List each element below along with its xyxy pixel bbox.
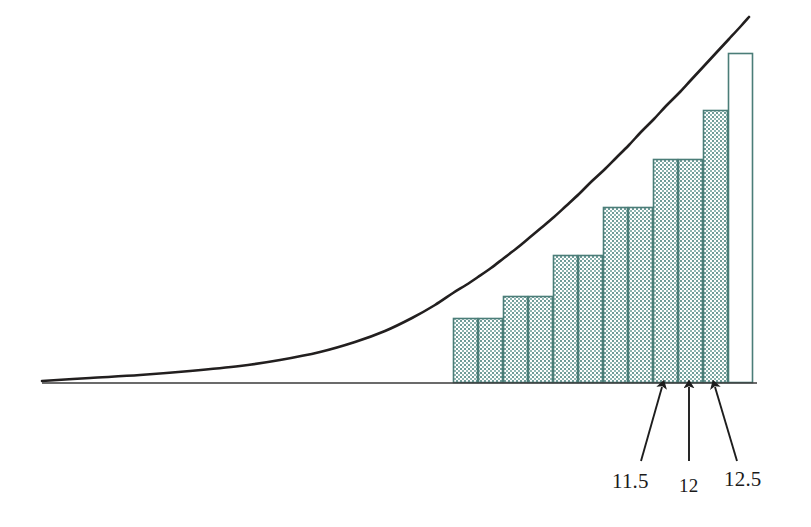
tick-label-12-5: 12.5 (724, 469, 762, 490)
bar-b3 (504, 297, 528, 383)
bar-b5 (554, 256, 578, 383)
tick-label-11-5: 11.5 (612, 471, 649, 492)
figure-container: 11.5 12 12.5 (0, 0, 811, 527)
bar-b12 (729, 54, 753, 383)
chart-svg (0, 0, 811, 527)
bar-b11 (704, 111, 728, 383)
annotation-arrows-layer (641, 387, 737, 461)
arrow-11-5 (641, 387, 662, 461)
bar-b1 (454, 319, 478, 383)
bar-b10 (679, 160, 703, 383)
bar-b8 (629, 208, 653, 383)
bar-b4 (529, 297, 553, 383)
bar-b9 (654, 160, 678, 383)
bars-layer (454, 54, 753, 383)
tick-label-12: 12 (679, 476, 698, 495)
bar-b6 (579, 256, 603, 383)
bar-b7 (604, 208, 628, 383)
bar-b2 (479, 319, 503, 383)
arrow-12-5 (715, 387, 737, 461)
